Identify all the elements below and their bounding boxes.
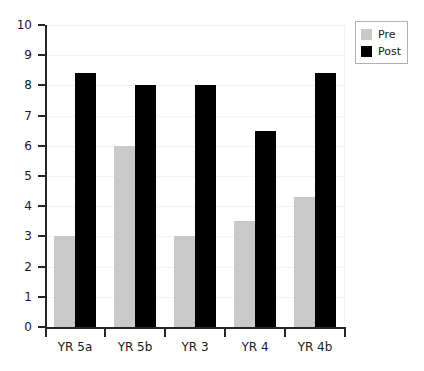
- bar-yr-3-pre: [174, 236, 195, 327]
- x-axis-tick: [344, 329, 346, 337]
- legend-label-post: Post: [378, 46, 401, 57]
- legend-label-pre: Pre: [378, 29, 396, 40]
- y-axis-tick: [38, 54, 45, 56]
- bar-yr-5a-pre: [54, 236, 75, 327]
- legend-item-pre: Pre: [361, 27, 401, 41]
- y-axis-tick-label: 8: [24, 79, 32, 91]
- y-axis-tick-label: 0: [24, 321, 32, 333]
- y-axis-tick: [38, 205, 45, 207]
- y-axis-tick-label: 7: [24, 110, 32, 122]
- legend-swatch-post: [361, 46, 372, 57]
- x-axis-tick: [45, 329, 47, 337]
- y-axis-tick-label: 9: [24, 49, 32, 61]
- y-axis-tick-label: 4: [24, 200, 32, 212]
- x-axis-tick-label: YR 3: [181, 341, 208, 353]
- y-axis-tick-label: 5: [24, 170, 32, 182]
- legend-item-post: Post: [361, 44, 401, 58]
- y-axis-tick: [38, 326, 45, 328]
- y-axis-tick: [38, 296, 45, 298]
- bar-yr-5a-post: [75, 73, 96, 327]
- y-axis-tick: [38, 266, 45, 268]
- x-axis-tick-label: YR 5a: [58, 341, 92, 353]
- x-axis-tick: [104, 329, 106, 337]
- gridline: [45, 25, 345, 26]
- legend-swatch-pre: [361, 29, 372, 40]
- x-axis-tick: [164, 329, 166, 337]
- bar-yr-3-post: [195, 85, 216, 327]
- bar-yr-4-post: [255, 131, 276, 327]
- legend: PrePost: [355, 21, 408, 64]
- bar-yr-4b-post: [315, 73, 336, 327]
- y-axis-tick: [38, 175, 45, 177]
- y-axis-line: [45, 25, 47, 328]
- x-axis-tick-label: YR 4: [241, 341, 268, 353]
- x-axis-tick-label: YR 5b: [118, 341, 153, 353]
- gridline: [45, 55, 345, 56]
- y-axis-tick-label: 10: [17, 19, 32, 31]
- y-axis-tick: [38, 145, 45, 147]
- y-axis-tick: [38, 24, 45, 26]
- y-axis-tick: [38, 115, 45, 117]
- bar-yr-4-pre: [234, 221, 255, 327]
- x-axis-tick: [224, 329, 226, 337]
- y-axis-tick-label: 1: [24, 291, 32, 303]
- y-axis-tick: [38, 235, 45, 237]
- y-axis-tick: [38, 84, 45, 86]
- bar-yr-5b-pre: [114, 146, 135, 327]
- y-axis-tick-label: 2: [24, 261, 32, 273]
- bar-chart: 012345678910 YR 5aYR 5bYR 3YR 4YR 4b Pre…: [0, 0, 424, 371]
- bar-yr-4b-pre: [294, 197, 315, 327]
- bar-yr-5b-post: [135, 85, 156, 327]
- y-axis-tick-label: 3: [24, 230, 32, 242]
- x-axis-tick: [284, 329, 286, 337]
- x-axis-line: [45, 327, 346, 329]
- y-axis-tick-label: 6: [24, 140, 32, 152]
- x-axis-tick-label: YR 4b: [298, 341, 333, 353]
